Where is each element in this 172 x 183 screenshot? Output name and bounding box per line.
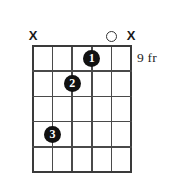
muted-string-marker-6: X <box>124 29 138 43</box>
fret-line-3 <box>32 121 132 123</box>
string-marker-row: XX <box>0 0 172 46</box>
fret-line-2 <box>32 96 132 98</box>
open-circle-icon <box>106 31 117 42</box>
fret-line-0 <box>32 45 132 47</box>
string-line-2 <box>52 46 54 172</box>
finger-dot-2: 2 <box>64 75 81 92</box>
muted-string-marker-1: X <box>26 29 40 43</box>
finger-dot-1: 1 <box>83 50 100 67</box>
fretboard-grid: 123 <box>33 46 131 172</box>
string-line-6 <box>130 46 132 172</box>
fret-line-4 <box>32 146 132 148</box>
fret-line-5 <box>32 171 132 173</box>
string-line-5 <box>111 46 113 172</box>
chord-diagram: XX 123 9 fr <box>0 0 172 183</box>
string-line-3 <box>71 46 73 172</box>
finger-dot-3: 3 <box>44 126 61 143</box>
starting-fret-label: 9 fr <box>137 50 157 66</box>
open-string-marker-5 <box>104 29 118 43</box>
string-line-1 <box>32 46 34 172</box>
fret-line-1 <box>32 70 132 72</box>
